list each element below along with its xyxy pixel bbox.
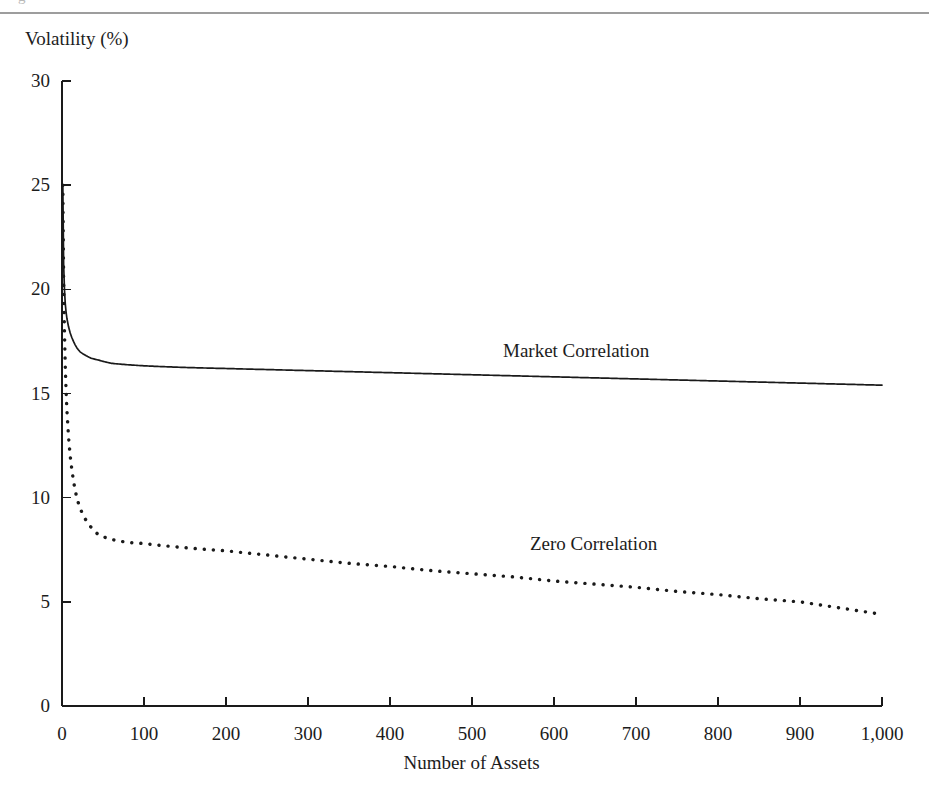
y-tick-marks bbox=[62, 81, 71, 602]
x-tick-label: 200 bbox=[212, 724, 241, 743]
series-line-market-correlation bbox=[63, 185, 882, 385]
x-tick-marks bbox=[144, 697, 882, 706]
x-tick-label: 500 bbox=[458, 724, 487, 743]
x-tick-label: 1,000 bbox=[861, 724, 904, 743]
series-annotation-zero-correlation: Zero Correlation bbox=[530, 533, 657, 554]
series-line-zero-correlation bbox=[63, 185, 882, 614]
x-tick-label: 800 bbox=[704, 724, 733, 743]
y-tick-label: 0 bbox=[4, 696, 50, 715]
x-tick-label: 400 bbox=[376, 724, 405, 743]
y-tick-label: 30 bbox=[4, 71, 50, 90]
y-tick-label: 15 bbox=[4, 384, 50, 403]
x-tick-label: 100 bbox=[130, 724, 159, 743]
x-tick-label: 300 bbox=[294, 724, 323, 743]
figure-container: Volatility (%) 051015202530 010020030040… bbox=[0, 0, 929, 786]
x-axis-title-text: Number of Assets bbox=[403, 752, 539, 774]
x-tick-label: 700 bbox=[622, 724, 651, 743]
x-tick-label: 900 bbox=[786, 724, 815, 743]
axis-lines bbox=[62, 81, 882, 706]
x-axis-title: Number of Assets bbox=[0, 752, 929, 774]
y-axis-title: Volatility (%) bbox=[25, 28, 129, 50]
series-annotation-market-correlation: Market Correlation bbox=[503, 340, 649, 361]
x-tick-label: 0 bbox=[57, 724, 67, 743]
plot-area bbox=[62, 81, 882, 706]
y-tick-label: 10 bbox=[4, 488, 50, 507]
y-tick-label: 5 bbox=[4, 592, 50, 611]
y-tick-label: 20 bbox=[4, 279, 50, 298]
y-tick-label: 25 bbox=[4, 175, 50, 194]
x-tick-label: 600 bbox=[540, 724, 569, 743]
